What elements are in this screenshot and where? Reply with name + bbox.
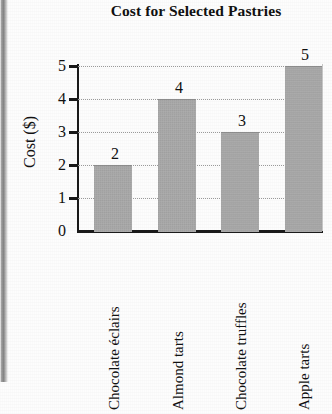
- y-tick-label-3: 3: [48, 124, 66, 140]
- bar-value-almond-tarts: 4: [159, 80, 199, 96]
- x-tick-label-almond-tarts: Almond tarts: [170, 331, 187, 410]
- y-axis-title: Cost ($): [21, 87, 39, 197]
- bar-chocolate-truffles: [221, 132, 259, 232]
- bar-value-apple-tarts: 5: [285, 47, 325, 63]
- bar-chocolate-eclairs: [94, 165, 132, 232]
- x-tick-label-chocolate-eclairs: Chocolate éclairs: [106, 306, 123, 410]
- bar-almond-tarts: [158, 99, 196, 232]
- bar-value-chocolate-truffles: 3: [222, 113, 262, 129]
- x-axis-label-group: Chocolate éclairs Almond tarts Chocolate…: [0, 236, 332, 414]
- y-tick-label-4: 4: [48, 91, 66, 107]
- chart-title: Cost for Selected Pastries: [62, 2, 330, 20]
- y-tick-label-1: 1: [48, 190, 66, 206]
- plot-right-border: [322, 64, 323, 231]
- bar-value-chocolate-eclairs: 2: [95, 146, 135, 162]
- bar-apple-tarts: [285, 66, 322, 232]
- y-tick-label-5: 5: [48, 58, 66, 74]
- y-tick-label-2: 2: [48, 157, 66, 173]
- x-tick-label-chocolate-truffles: Chocolate truffles: [233, 302, 250, 410]
- bar-chart-figure: Cost for Selected Pastries Cost ($) 5 4 …: [0, 0, 332, 414]
- x-tick-label-apple-tarts: Apple tarts: [296, 344, 313, 410]
